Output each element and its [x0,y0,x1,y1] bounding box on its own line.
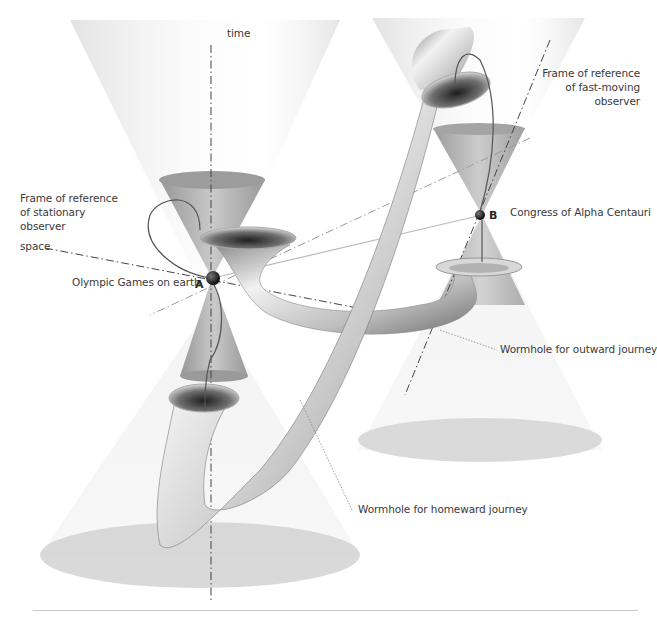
event-b-marker: B [489,209,497,222]
frame-fast-line3: observer [594,95,640,108]
frame-stationary-line3: observer [20,220,66,233]
event-b-label: Congress of Alpha Centauri [510,206,651,219]
frame-fast-line2: of fast-moving [565,81,640,94]
bottom-rule [33,610,638,611]
time-axis-label: time [227,27,250,40]
frame-stationary-line2: of stationary [20,206,85,219]
wormhole-outward-label: Wormhole for outward journey [500,343,657,356]
event-b-dot [475,210,485,220]
event-a-dot [206,271,220,285]
event-a-label: Olympic Games on earth [72,276,201,289]
event-a-marker: A [195,278,204,291]
frame-fast-line1: Frame of reference [542,67,640,80]
space-axis-label: space [20,240,50,253]
wormhole-homeward-label: Wormhole for homeward journey [358,503,528,516]
frame-stationary-line1: Frame of reference [20,192,118,205]
